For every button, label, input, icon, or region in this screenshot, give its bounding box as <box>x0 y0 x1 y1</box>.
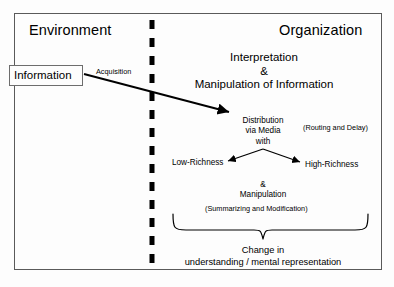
information-box: Information <box>9 65 83 86</box>
high-richness-label: High-Richness <box>305 160 358 169</box>
interpretation-line-3: Manipulation of Information <box>184 78 344 92</box>
outcome-line-1: Change in <box>163 245 363 257</box>
distribution-line-1: Distribution <box>233 116 293 126</box>
outcome-block: Change in understanding / mental represe… <box>163 245 363 268</box>
interpretation-heading: Interpretation & Manipulation of Informa… <box>184 51 344 92</box>
diagram-vector-layer <box>0 0 394 287</box>
organization-title: Organization <box>279 22 362 38</box>
summarizing-note: (Summarizing and Modification) <box>205 205 308 213</box>
distribution-line-3: with <box>233 137 293 147</box>
distribution-line-2: via Media <box>233 126 293 136</box>
summary-brace <box>173 214 368 239</box>
manipulation-block: & Manipulation <box>223 180 303 201</box>
information-box-label: Information <box>14 69 72 81</box>
diagram-canvas: Environment Organization Information Acq… <box>0 0 394 287</box>
manipulation-line-1: & <box>223 180 303 190</box>
low-richness-arrow <box>228 149 263 161</box>
outcome-line-2: understanding / mental representation <box>163 257 363 269</box>
environment-title: Environment <box>29 22 112 38</box>
acquisition-label: Acquisition <box>96 68 131 76</box>
interpretation-line-1: Interpretation <box>184 51 344 65</box>
distribution-block: Distribution via Media with <box>233 116 293 147</box>
manipulation-line-2: Manipulation <box>223 190 303 200</box>
low-richness-label: Low-Richness <box>172 158 223 167</box>
interpretation-line-2: & <box>184 65 344 79</box>
high-richness-arrow <box>263 149 300 162</box>
routing-and-delay-note: (Routing and Delay) <box>303 124 368 132</box>
